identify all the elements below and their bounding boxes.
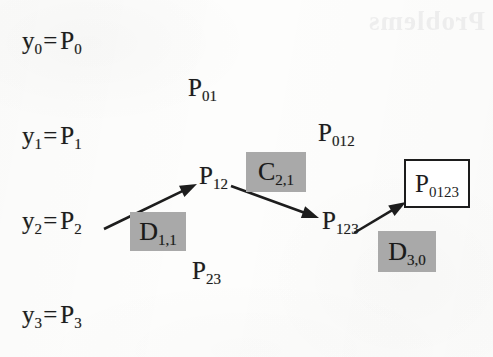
node-y1: y1=P1 bbox=[22, 123, 82, 148]
node-y3-poly: P bbox=[60, 301, 74, 328]
node-p123-sub: 123 bbox=[336, 221, 359, 237]
operator-chip-c21: C2,1 bbox=[246, 152, 306, 192]
node-y0-var: y bbox=[22, 27, 35, 54]
node-y3-var-sub: 3 bbox=[35, 315, 43, 331]
operator-chip-d30: D3,0 bbox=[378, 231, 436, 272]
node-p012: P012 bbox=[318, 120, 355, 145]
node-y1-poly-sub: 1 bbox=[74, 136, 82, 152]
result-node-p0123-box: P0123 bbox=[404, 159, 470, 208]
node-y2-equals: = bbox=[43, 207, 57, 234]
figure-canvas: Problems y0=P0 y1=P1 y2=P2 y3=P3 P01 P12… bbox=[0, 0, 493, 357]
result-poly-sub: 0123 bbox=[429, 184, 459, 200]
node-p01-poly: P bbox=[188, 74, 202, 101]
node-y3: y3=P3 bbox=[22, 302, 82, 327]
operator-d11-sub: 1,1 bbox=[158, 232, 177, 248]
node-y3-var: y bbox=[22, 301, 35, 328]
arrow-p123-to-p0123-shaft bbox=[354, 209, 394, 233]
operator-c21-letter: C bbox=[258, 157, 275, 186]
node-p12-poly: P bbox=[199, 162, 213, 189]
node-p12-sub: 12 bbox=[213, 176, 228, 192]
node-y2: y2=P2 bbox=[22, 208, 82, 233]
node-p01: P01 bbox=[188, 75, 217, 100]
node-y2-var: y bbox=[22, 207, 35, 234]
operator-c21-sub: 2,1 bbox=[275, 172, 294, 188]
node-p01-sub: 01 bbox=[202, 88, 217, 104]
node-y0-poly: P bbox=[60, 27, 74, 54]
node-y2-poly: P bbox=[60, 207, 74, 234]
operator-d30-sub: 3,0 bbox=[407, 252, 426, 268]
node-p012-sub: 012 bbox=[332, 133, 355, 149]
node-y1-poly: P bbox=[60, 122, 74, 149]
arrow-p12-to-p123-head bbox=[301, 206, 319, 218]
node-p012-poly: P bbox=[318, 119, 332, 146]
arrow-p2-to-p12-head bbox=[179, 184, 197, 197]
node-p123-poly: P bbox=[322, 207, 336, 234]
node-y1-var-sub: 1 bbox=[35, 136, 43, 152]
node-y0: y0=P0 bbox=[22, 28, 82, 53]
operator-d11-letter: D bbox=[139, 217, 158, 246]
node-p123: P123 bbox=[322, 208, 359, 233]
node-y0-equals: = bbox=[43, 27, 57, 54]
node-p23-poly: P bbox=[192, 257, 206, 284]
node-p23: P23 bbox=[192, 258, 221, 283]
node-y1-var: y bbox=[22, 122, 35, 149]
operator-d30-letter: D bbox=[388, 237, 407, 266]
node-p12: P12 bbox=[199, 163, 228, 188]
operator-chip-d11: D1,1 bbox=[130, 212, 186, 251]
node-y3-poly-sub: 3 bbox=[74, 315, 82, 331]
node-y0-poly-sub: 0 bbox=[74, 41, 82, 57]
node-y3-equals: = bbox=[43, 301, 57, 328]
node-y2-var-sub: 2 bbox=[35, 221, 43, 237]
node-y0-var-sub: 0 bbox=[35, 41, 43, 57]
node-y2-poly-sub: 2 bbox=[74, 221, 82, 237]
node-p23-sub: 23 bbox=[206, 271, 221, 287]
result-poly: P bbox=[415, 170, 429, 197]
node-y1-equals: = bbox=[43, 122, 57, 149]
